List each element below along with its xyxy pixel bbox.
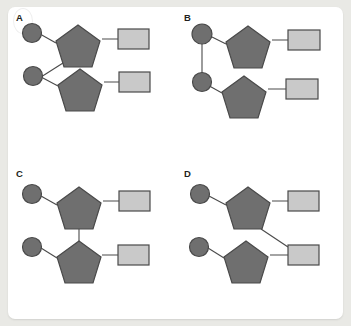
circle-top <box>23 24 42 43</box>
circle-bottom <box>24 67 43 86</box>
link-circle-top-to-pentagon-top <box>210 36 226 44</box>
figure-card: A B <box>8 7 343 319</box>
pentagon-bottom <box>224 241 268 283</box>
rectangle-bottom <box>119 72 150 92</box>
pentagon-bottom <box>58 69 102 111</box>
pentagon-bottom <box>57 241 101 283</box>
rectangle-bottom <box>288 245 319 265</box>
rectangle-top <box>118 29 149 49</box>
circle-bottom <box>193 73 212 92</box>
panel-b-diagram <box>176 7 343 163</box>
panel-a: A <box>8 7 175 163</box>
link-pentagon-top-to-circle-bottom <box>41 63 63 77</box>
rectangle-top <box>119 191 150 211</box>
circle-top <box>191 185 210 204</box>
pentagon-top <box>226 26 270 68</box>
rectangle-bottom <box>286 79 318 99</box>
link-circle-top-to-pentagon-top <box>41 196 57 205</box>
panel-d: D <box>176 163 343 319</box>
link-circle-bottom-to-pentagon-bottom <box>41 77 58 86</box>
panel-c-diagram <box>8 163 175 319</box>
pentagon-bottom <box>222 76 266 118</box>
panel-d-diagram <box>176 163 343 319</box>
pentagon-top <box>226 187 270 229</box>
panel-b: B <box>176 7 343 163</box>
link-circle-bottom-to-pentagon-bottom <box>208 248 224 258</box>
circle-bottom <box>23 238 42 257</box>
rectangle-top <box>288 191 319 211</box>
panel-a-diagram <box>8 7 175 163</box>
pentagon-top <box>57 187 101 229</box>
pentagon-top <box>56 25 100 67</box>
rectangle-top <box>288 30 320 50</box>
link-circle-top-to-pentagon-top <box>40 34 56 43</box>
circle-top <box>192 24 212 44</box>
rectangle-bottom <box>118 245 149 265</box>
circle-bottom <box>190 238 209 257</box>
link-circle-bottom-to-pentagon-bottom <box>41 248 57 258</box>
link-pentagon-top-to-rectangle-bottom <box>261 229 288 247</box>
circle-top <box>23 185 42 204</box>
panel-c: C <box>8 163 175 319</box>
link-circle-top-to-pentagon-top <box>209 196 226 205</box>
